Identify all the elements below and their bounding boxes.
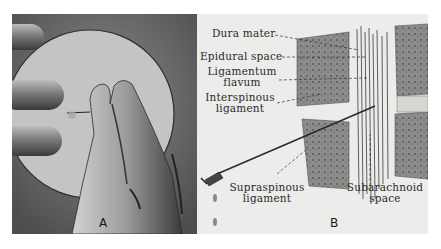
- label-ligamentum-flavum: Ligamentum flavum: [207, 66, 277, 88]
- finger-bottom: [12, 126, 62, 156]
- panel-b-spine-diagram: Dura mater Epidural space Ligamentum fla…: [197, 14, 428, 234]
- finger-middle: [12, 80, 64, 110]
- label-dura-mater: Dura mater: [212, 28, 275, 39]
- label-subarachnoid-space: Subarachnoid space: [335, 182, 428, 204]
- label-supraspinous-ligament: Supraspinous ligament: [227, 182, 307, 204]
- fluid-drop-2: [213, 218, 217, 226]
- label-interspinous-line2: ligament: [200, 103, 280, 114]
- hand-needle-drawing: [12, 14, 197, 234]
- label-supraspinous-line2: ligament: [227, 193, 307, 204]
- label-flavum-line2: flavum: [207, 77, 277, 88]
- label-epidural-space: Epidural space: [200, 51, 282, 62]
- ligament-lines: [357, 26, 388, 204]
- disc: [397, 96, 428, 112]
- needle-hub: [205, 172, 223, 186]
- panel-label-a: A: [99, 216, 107, 230]
- vertebra-upper-right: [395, 24, 428, 96]
- fluid-drop-1: [213, 194, 217, 202]
- panel-a-hand-illustration: A: [12, 14, 197, 234]
- label-subarachnoid-line2: space: [335, 193, 428, 204]
- vertebra-upper-left: [297, 32, 349, 106]
- spinal-needle: [217, 106, 375, 174]
- finger-top: [12, 24, 44, 50]
- vertebra-lower-right: [395, 112, 428, 179]
- label-interspinous-ligament: Interspinous ligament: [200, 92, 280, 114]
- vertebra-lower-left: [302, 119, 349, 189]
- panel-label-b: B: [330, 216, 338, 230]
